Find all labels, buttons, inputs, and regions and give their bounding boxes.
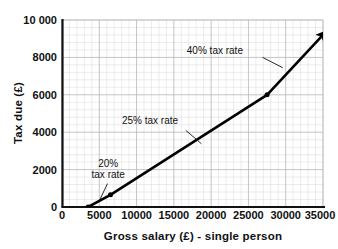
chart-figure: 0200040006000800010 000 0500010000150002… [0,0,338,249]
y-tick-label: 10 000 [23,14,57,26]
x-axis-title: Gross salary (£) - single person [104,230,282,242]
annotation-line: tax rate [92,169,126,180]
data-point-marker [108,192,113,197]
y-tick-label: 0 [51,201,57,213]
annotation-line: 25% tax rate [122,115,179,126]
annotation-rate-25: 25% tax rate [122,115,179,126]
annotation-line: 20% [98,158,118,169]
x-tick-label: 25000 [233,209,264,221]
x-tick-label: 10000 [121,209,152,221]
y-tick-label: 4000 [33,126,57,138]
tax-due-line-chart: 0200040006000800010 000 0500010000150002… [0,0,338,249]
x-tick-label: 15000 [159,209,190,221]
x-tick-label: 30000 [270,209,301,221]
y-tick-label: 8000 [33,51,57,63]
x-axis-tick-labels: 05000100001500020000250003000035000 [59,209,335,221]
x-tick-label: 0 [59,209,65,221]
y-tick-label: 6000 [33,89,57,101]
x-tick-label: 20000 [196,209,227,221]
x-tick-label: 5000 [87,209,111,221]
annotation-rate-40: 40% tax rate [187,45,244,56]
x-tick-label: 35000 [305,209,336,221]
y-tick-label: 2000 [33,164,57,176]
annotation-line: 40% tax rate [187,45,244,56]
y-axis-title: Tax due (£) [12,82,24,144]
data-point-marker [265,92,270,97]
